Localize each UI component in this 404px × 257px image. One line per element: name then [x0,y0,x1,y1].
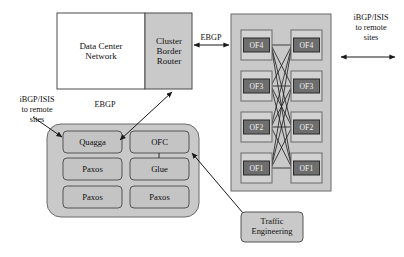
module-paxos-bottom-left-box [63,186,122,208]
switch-right-of4 [291,30,322,60]
switch-right-of2 [291,112,322,142]
module-ofc-box [130,131,189,153]
diagram-vector-layer [0,0,404,257]
switch-left-of2 [241,112,272,142]
switch-right-of1 [291,153,322,183]
switch-left-of4 [241,30,272,60]
switch-right-of3 [291,71,322,101]
data-center-network-box [57,13,145,89]
network-architecture-diagram: Data Center Network Cluster Border Route… [0,0,404,257]
switch-left-of3 [241,71,272,101]
module-glue-box [130,158,189,180]
module-paxos-left-box [63,158,122,180]
module-paxos-bottom-right-box [130,186,189,208]
module-quagga-box [63,131,122,153]
switch-left-of1 [241,153,272,183]
cluster-border-router-box [145,13,192,89]
traffic-engineering-box [241,212,303,242]
